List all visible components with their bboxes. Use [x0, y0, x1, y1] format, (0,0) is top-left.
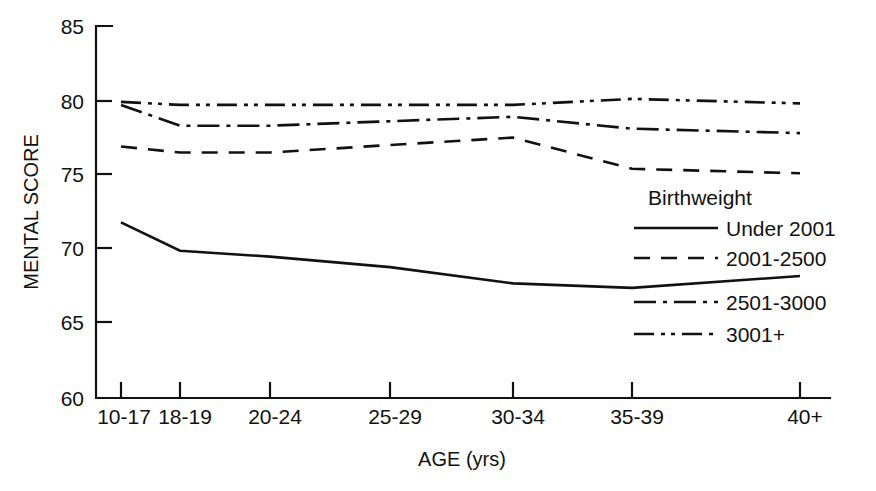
legend-entry-3001-plus[interactable]: 3001+ — [634, 323, 785, 346]
legend-entry-under-2001[interactable]: Under 2001 — [634, 217, 836, 240]
x-tick-marks — [121, 382, 800, 398]
legend-label-2501-3000: 2501-3000 — [726, 291, 826, 314]
y-tick-label-85: 85 — [61, 15, 84, 38]
x-tick-label-40plus: 40+ — [787, 405, 823, 428]
axis-frame — [96, 26, 830, 398]
y-tick-label-70: 70 — [61, 237, 84, 260]
series-line-3001-plus — [121, 99, 800, 105]
chart-figure: 85 80 75 70 65 60 MENTAL SCORE 10-17 18-… — [0, 0, 876, 491]
y-tick-label-75: 75 — [61, 163, 84, 186]
y-tick-marks — [96, 101, 112, 322]
y-axis-title: MENTAL SCORE — [20, 134, 42, 290]
series-line-2001-2500 — [121, 138, 800, 174]
legend-title: Birthweight — [648, 186, 752, 209]
legend-label-2001-2500: 2001-2500 — [726, 247, 826, 270]
axis-lines — [96, 26, 830, 398]
x-axis-title: AGE (yrs) — [418, 448, 506, 470]
x-tick-label-10-17: 10-17 — [97, 405, 151, 428]
x-tick-labels: 10-17 18-19 20-24 25-29 30-34 35-39 40+ — [97, 405, 823, 428]
legend: Birthweight Under 2001 2001-2500 2501-30… — [634, 186, 836, 346]
x-tick-label-25-29: 25-29 — [368, 405, 422, 428]
x-tick-label-35-39: 35-39 — [610, 405, 664, 428]
legend-entry-2001-2500[interactable]: 2001-2500 — [634, 247, 826, 270]
x-tick-label-30-34: 30-34 — [491, 405, 545, 428]
x-tick-label-20-24: 20-24 — [248, 405, 302, 428]
legend-entry-2501-3000[interactable]: 2501-3000 — [634, 291, 826, 314]
line-chart: 85 80 75 70 65 60 MENTAL SCORE 10-17 18-… — [0, 0, 876, 491]
x-tick-label-18-19: 18-19 — [158, 405, 212, 428]
y-tick-label-80: 80 — [61, 90, 84, 113]
y-tick-label-65: 65 — [61, 311, 84, 334]
y-tick-labels: 85 80 75 70 65 60 — [61, 15, 84, 410]
series-line-under-2001 — [121, 222, 800, 288]
series-line-2501-3000 — [121, 105, 800, 133]
legend-label-under-2001: Under 2001 — [726, 217, 836, 240]
legend-label-3001-plus: 3001+ — [726, 323, 785, 346]
y-tick-label-60: 60 — [61, 387, 84, 410]
